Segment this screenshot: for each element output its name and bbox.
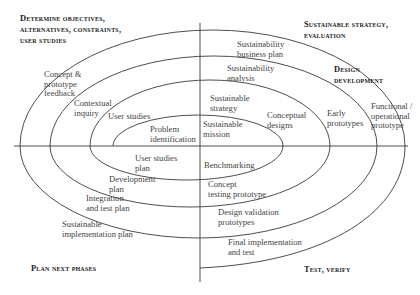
label-problem-identification: Problem identification bbox=[150, 125, 196, 144]
label-contextual-inquiry: Contextual inquiry bbox=[74, 99, 112, 118]
label-sustainability-analysis: Sustainability analysis bbox=[227, 64, 274, 83]
label-sustainable-strategy: Sustainable strategy bbox=[210, 94, 250, 113]
label-user-studies: User studies bbox=[108, 112, 150, 122]
heading-plan-next-phases: Plan next phases bbox=[31, 263, 96, 274]
label-development-plan: Development plan bbox=[109, 175, 155, 194]
heading-determine-objectives: Determine objectives, alternatives, cons… bbox=[20, 13, 121, 46]
label-design-validation-prototypes: Design validation prototypes bbox=[218, 208, 279, 227]
heading-design-development: Design development bbox=[334, 64, 383, 86]
heading-test-verify: Test, verify bbox=[304, 264, 351, 275]
label-benchmarking: Benchmarking bbox=[204, 161, 255, 171]
label-functional-operational-prototype: Functional / operational prototype bbox=[371, 102, 412, 131]
label-sustainability-business-plan: Sustainability business plan bbox=[237, 40, 284, 59]
label-early-prototypes: Early prototypes bbox=[327, 109, 363, 128]
label-conceptual-designs: Conceptual designs bbox=[267, 111, 306, 130]
label-user-studies-plan: User studies plan bbox=[135, 154, 177, 173]
label-sustainable-mission: Sustainable mission bbox=[203, 120, 243, 139]
label-final-implementation-and-test: Final implementation and test bbox=[228, 238, 302, 257]
label-concept-testing-prototype: Concept testing prototype bbox=[208, 180, 266, 199]
label-integration-and-test-plan: Integration and test plan bbox=[86, 194, 129, 213]
label-sustainable-implementation-plan: Sustainable implementation plan bbox=[62, 220, 133, 239]
heading-sustainable-strategy: Sustainable strategy, evaluation bbox=[304, 19, 388, 41]
label-concept-prototype-feedback: Concept & prototype feedback bbox=[44, 70, 81, 99]
